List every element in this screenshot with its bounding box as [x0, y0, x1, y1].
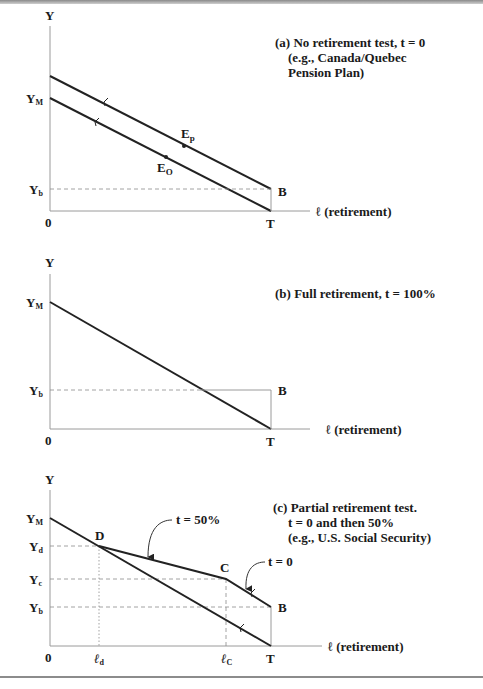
panel-a-eo-label: EO [157, 160, 173, 177]
panel-c: Y (c) Partial retirement test. t = 0 and… [26, 472, 431, 667]
panel-b-x-axis-label: ℓ (retirement) [325, 422, 402, 437]
panel-a-caption-line-3: Pension Plan) [288, 65, 364, 80]
panel-c-b-label: B [278, 600, 287, 615]
panel-b-b-label: B [278, 383, 287, 398]
panel-b-yb-label: Yb [29, 383, 43, 399]
panel-a-y-axis-label: Y [45, 8, 55, 23]
panel-c-t0-arrow [246, 562, 265, 589]
panel-c-x-axis-label: ℓ (retirement) [327, 639, 404, 654]
retirement-test-budget-diagram: Y (a) No retirement test, t = 0 (e.g., C… [0, 0, 483, 689]
panel-c-yc-label: Yc [29, 572, 42, 588]
panel-b-origin-label: 0 [45, 433, 52, 448]
panel-a-original-budget-line [50, 98, 271, 211]
panel-c-t50-arrow [148, 520, 172, 557]
panel-c-kinked-budget-line [99, 546, 271, 607]
panel-a-point-eo [164, 155, 168, 159]
panel-c-yd-label: Yd [29, 539, 43, 555]
panel-b-budget-line [50, 302, 271, 429]
panel-a-ym-label: YM [26, 91, 43, 107]
panel-c-t0-annotation: t = 0 [268, 554, 293, 569]
panel-b: Y (b) Full retirement, t = 100% B YM Yb … [26, 255, 436, 449]
panel-b-ym-label: YM [26, 295, 43, 311]
panel-a-caption-line-2: (e.g., Canada/Quebec [288, 50, 407, 65]
panel-b-t-label: T [266, 434, 275, 449]
bottom-rule [0, 676, 483, 678]
panel-a-caption-line-1: (a) No retirement test, t = 0 [275, 35, 425, 50]
panel-a-yb-label: Yb [29, 182, 43, 198]
panel-c-ym-label: YM [26, 511, 43, 527]
panel-b-y-axis-label: Y [45, 255, 55, 270]
panel-c-ld-label: ℓd [94, 651, 105, 667]
panel-c-original-budget-line [50, 518, 271, 646]
panel-c-t-label: T [266, 651, 275, 666]
panel-a-point-ep [182, 144, 186, 148]
panel-a-b-label: B [278, 184, 287, 199]
panel-a-x-axis-label: ℓ (retirement) [315, 204, 392, 219]
panel-a-t-label: T [266, 216, 275, 231]
panel-c-origin-label: 0 [45, 650, 52, 665]
panel-c-t50-annotation: t = 50% [176, 512, 220, 527]
panel-c-caption-line-1: (c) Partial retirement test. [273, 500, 417, 515]
panel-c-yb-label: Yb [29, 600, 43, 616]
panel-a: Y (a) No retirement test, t = 0 (e.g., C… [26, 8, 425, 231]
panel-b-caption: (b) Full retirement, t = 100% [275, 286, 436, 301]
panel-c-y-axis-label: Y [45, 472, 55, 487]
panel-c-caption-line-2: t = 0 and then 50% [288, 515, 394, 530]
panel-a-origin-label: 0 [45, 215, 52, 230]
panel-c-caption-line-3: (e.g., U.S. Social Security) [288, 530, 431, 545]
panel-a-ep-label: Ep [181, 126, 195, 143]
panel-c-lc-label: ℓC [221, 651, 233, 667]
panel-c-c-label: C [220, 560, 229, 575]
panel-c-d-label: D [95, 528, 104, 543]
